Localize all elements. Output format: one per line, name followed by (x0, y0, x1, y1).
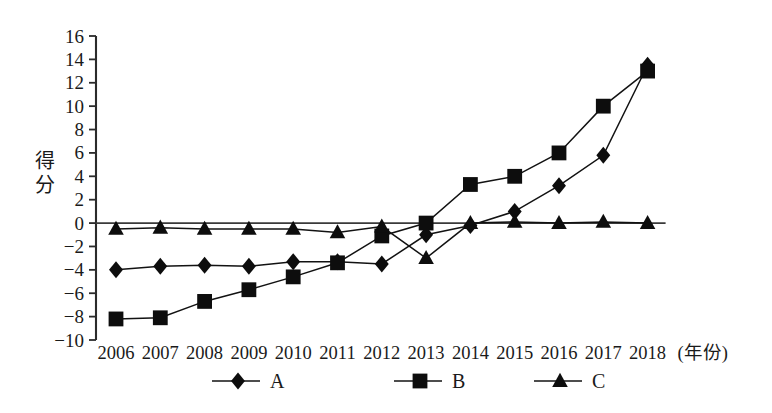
y-tick-label: 0 (75, 213, 85, 234)
data-point-triangle (551, 215, 567, 229)
x-tick-label: 2011 (319, 343, 355, 363)
y-tick-label: 16 (65, 26, 84, 47)
data-point-triangle (507, 214, 523, 228)
x-tick-label: 2009 (230, 343, 267, 363)
y-tick-label: −6 (64, 283, 84, 304)
series-B (109, 64, 655, 327)
y-axis-title-char: 分 (35, 174, 55, 196)
x-tick-label: 2016 (541, 343, 578, 363)
y-tick-label: 12 (65, 72, 84, 93)
y-axis-title-char: 得 (35, 150, 55, 172)
data-point-square (640, 64, 655, 79)
x-tick-label: 2013 (408, 343, 445, 363)
x-axis-unit-label: (年份) (678, 343, 728, 364)
data-point-triangle (463, 215, 479, 229)
y-tick-label: −2 (64, 236, 84, 257)
data-point-diamond (231, 373, 245, 390)
data-point-square (507, 169, 522, 184)
x-tick-label: 2014 (452, 343, 489, 363)
data-point-diamond (596, 147, 610, 164)
data-point-square (413, 374, 428, 389)
legend-label-C: C (592, 370, 605, 392)
data-point-square (463, 177, 478, 192)
chart-container: 1614121086420−2−4−6−8−10 200620072008200… (0, 0, 772, 413)
data-point-square (197, 294, 212, 309)
y-tick-label: −4 (64, 259, 85, 280)
legend-item-B[interactable]: B (394, 370, 465, 392)
x-tick-label: 2007 (142, 343, 179, 363)
y-tick-label: 10 (65, 96, 84, 117)
data-point-diamond (153, 258, 167, 275)
y-tick-label: 8 (75, 119, 85, 140)
y-tick-label: 2 (75, 189, 85, 210)
x-tick-label: 2017 (585, 343, 622, 363)
data-point-square (109, 312, 124, 327)
data-point-diamond (198, 257, 212, 274)
data-point-triangle (640, 215, 656, 229)
x-tick-label: 2006 (98, 343, 135, 363)
data-point-diamond (242, 258, 256, 275)
y-tick-label: −10 (54, 330, 84, 351)
x-tick-label: 2010 (275, 343, 312, 363)
x-tick-label: 2015 (496, 343, 533, 363)
legend-label-B: B (452, 370, 465, 392)
data-point-square (153, 310, 168, 325)
y-axis-title: 得分 (35, 150, 55, 196)
x-tick-label: 2012 (363, 343, 400, 363)
x-tick-label: 2008 (186, 343, 223, 363)
chart-legend: ABC (212, 370, 605, 392)
data-point-triangle (374, 218, 390, 232)
data-point-square (419, 216, 434, 231)
data-point-square (242, 282, 257, 297)
data-point-diamond (552, 177, 566, 194)
series-A (109, 57, 655, 279)
y-tick-label: 14 (65, 49, 85, 70)
data-point-square (552, 146, 567, 161)
y-tick-label: 4 (75, 166, 85, 187)
line-chart: 1614121086420−2−4−6−8−10 200620072008200… (0, 0, 772, 413)
legend-label-A: A (270, 370, 285, 392)
data-series-group (108, 57, 655, 327)
data-point-diamond (109, 261, 123, 278)
x-axis: 2006200720082009201020112012201320142015… (96, 340, 728, 364)
y-tick-label: −8 (64, 306, 84, 327)
data-point-square (596, 99, 611, 114)
legend-item-C[interactable]: C (534, 370, 605, 392)
data-point-diamond (286, 253, 300, 270)
data-point-triangle (596, 214, 612, 228)
data-point-triangle (153, 220, 169, 234)
data-point-square (330, 255, 345, 270)
data-point-square (286, 269, 301, 284)
legend-item-A[interactable]: A (212, 370, 285, 392)
data-point-diamond (375, 256, 389, 273)
x-tick-label: 2018 (629, 343, 666, 363)
data-point-triangle (418, 250, 434, 264)
y-tick-label: 6 (75, 142, 85, 163)
y-axis: 1614121086420−2−4−6−8−10 (54, 26, 96, 351)
data-point-triangle (552, 373, 568, 387)
